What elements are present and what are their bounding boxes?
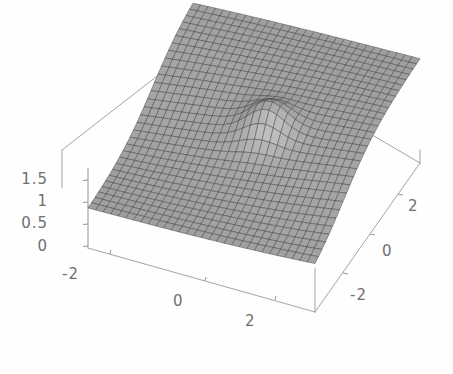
- z-tick-label-1: 1: [4, 194, 48, 209]
- z-tick-label-1p5: 1.5: [4, 172, 48, 187]
- x-tick-label-m2: -2: [62, 267, 79, 282]
- x-tick-label-0: 0: [173, 294, 184, 309]
- z-tick-label-0: 0: [4, 239, 48, 254]
- z-tick-0: [83, 246, 88, 247]
- y-tick-label-m2: -2: [350, 288, 367, 303]
- x-tick-label-2: 2: [245, 314, 256, 329]
- z-tick-label-0p5: 0.5: [4, 216, 48, 231]
- z-tick-1p5: [83, 180, 88, 181]
- plot-canvas: [0, 0, 453, 374]
- z-tick-0p5: [83, 224, 88, 225]
- y-tick-label-2: 2: [408, 199, 419, 214]
- z-tick-1: [83, 202, 88, 203]
- y-tick-label-0: 0: [382, 244, 393, 259]
- surface-plot-figure: 1.5 1 0.5 0 -2 0 2 2 0 -2: [0, 0, 453, 374]
